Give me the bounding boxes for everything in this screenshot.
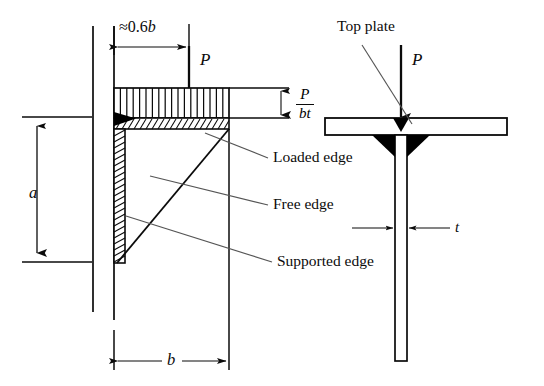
dimension-b-label: b bbox=[167, 352, 175, 369]
weld-triangle-right bbox=[407, 135, 430, 157]
engineering-figure: ≈0.6b P P bt Loaded edge Free edge Suppo… bbox=[0, 0, 544, 386]
load-label-right-view: P bbox=[412, 51, 422, 68]
dimension-a-label: a bbox=[29, 185, 37, 202]
top-plate-leader-line bbox=[362, 45, 412, 124]
dim-p-over-bt-extension-lines bbox=[229, 88, 289, 118]
top-plate-label: Top plate bbox=[337, 18, 395, 34]
edge-label-leader-lines bbox=[126, 133, 272, 262]
thickness-label: t bbox=[455, 220, 459, 235]
stress-value-fraction: P bt bbox=[296, 87, 314, 122]
dimension-06b-label: ≈0.6b bbox=[119, 19, 156, 35]
fraction-denominator: bt bbox=[296, 105, 314, 122]
free-edge-label: Free edge bbox=[273, 196, 334, 212]
supported-edge-label: Supported edge bbox=[277, 253, 374, 269]
weld-triangle-left bbox=[372, 135, 395, 157]
figure-linework bbox=[0, 0, 544, 386]
loaded-edge-label: Loaded edge bbox=[273, 149, 353, 165]
top-plate bbox=[325, 118, 507, 135]
tee-web bbox=[395, 135, 407, 361]
fraction-numerator: P bbox=[296, 87, 314, 104]
load-label-left-view: P bbox=[200, 51, 210, 68]
